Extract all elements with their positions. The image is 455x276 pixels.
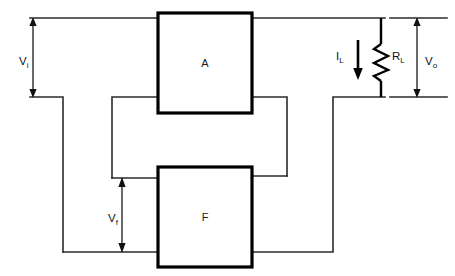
output-voltage-subscript: o [433,61,438,70]
input-voltage-dimension [29,17,36,98]
input-voltage-label: Vi [19,55,29,70]
load-resistor-symbol [374,18,388,97]
amplifier-block-label: A [201,57,209,69]
load-current-subscript: L [339,56,344,65]
wire-a-in-lower-to-f [112,97,158,178]
load-resistor-label: RL [392,50,405,65]
load-resistor-symbol: R [392,50,400,62]
feedback-block[interactable]: F [158,167,252,267]
output-voltage-label: Vo [425,55,438,70]
load-current-label: IL [336,50,344,65]
feedback-voltage-dimension [118,177,125,253]
input-voltage-subscript: i [27,61,29,70]
current-arrow-head [353,68,363,80]
resistor-zigzag [374,44,388,81]
feedback-voltage-label: Vf [108,212,119,227]
load-current-arrow-symbol [353,40,363,80]
feedback-amplifier-diagram: A F Vi Vo Vf IL RL [0,0,455,276]
wire-a-out-lower [252,97,287,176]
diagram-canvas: A F Vi Vo Vf IL RL [0,0,455,276]
wire-input-bottom [30,97,63,252]
wire-output-return [252,97,385,252]
amplifier-block[interactable]: A [158,13,252,113]
load-resistor-subscript: L [400,56,405,65]
feedback-block-label: F [202,211,209,223]
feedback-voltage-subscript: f [116,218,119,227]
